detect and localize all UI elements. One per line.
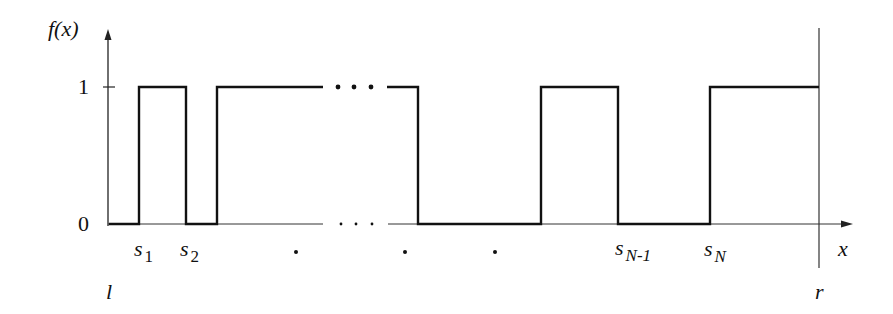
ellipsis-dot <box>352 85 357 90</box>
y-axis-label: f(x) <box>48 18 79 40</box>
x-axis-arrow-icon <box>841 221 853 228</box>
point-marker <box>493 250 497 254</box>
point-marker <box>403 250 407 254</box>
step-function-diagram <box>0 0 893 314</box>
y-tick-label-0: 0 <box>78 213 89 235</box>
ellipsis-dot-small <box>371 223 374 226</box>
point-marker <box>294 250 298 254</box>
switch-point-sN: sN <box>704 238 726 260</box>
ellipsis-dot <box>336 85 341 90</box>
ellipsis-dot-small <box>340 223 343 226</box>
switch-point-s1: s1 <box>134 238 153 260</box>
y-tick-label-1: 1 <box>78 76 89 98</box>
x-axis-label: x <box>838 238 848 260</box>
switch-point-sN-1: sN-1 <box>615 237 651 259</box>
right-bound-label: r <box>815 281 824 303</box>
ellipsis-dot-small <box>355 223 358 226</box>
left-bound-label: l <box>106 281 112 303</box>
y-axis-arrow-icon <box>105 29 112 40</box>
step-function-segment-left <box>109 87 323 224</box>
step-function-segment-right <box>387 87 819 224</box>
ellipsis-dot <box>369 85 374 90</box>
switch-point-s2: s2 <box>180 238 199 260</box>
